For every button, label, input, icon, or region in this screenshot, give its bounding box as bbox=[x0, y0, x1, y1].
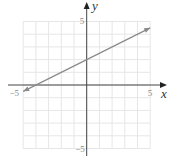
axes bbox=[8, 2, 167, 156]
x-tick-label-max: 5 bbox=[148, 88, 153, 98]
y-axis-label: y bbox=[90, 0, 98, 13]
x-axis-label: x bbox=[160, 86, 167, 101]
y-axis-arrow-icon bbox=[84, 2, 90, 9]
y-tick-label-min: −5 bbox=[75, 144, 85, 154]
y-tick-label-max: 5 bbox=[80, 16, 85, 26]
coordinate-plane: −5 5 5 −5 x y bbox=[0, 0, 174, 162]
x-tick-label-min: −5 bbox=[9, 88, 19, 98]
